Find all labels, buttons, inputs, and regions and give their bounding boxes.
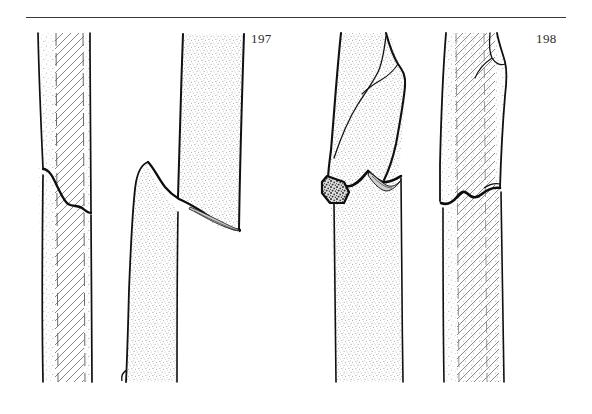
stem-198-right xyxy=(436,28,511,392)
stem-197-right-base-step xyxy=(239,229,240,232)
stem-198-left xyxy=(320,28,420,391)
stem-197-right xyxy=(120,30,250,390)
plate-drawing xyxy=(0,0,592,414)
stem-197-left xyxy=(30,30,100,390)
stem-198-right-lower-fill xyxy=(436,182,511,392)
